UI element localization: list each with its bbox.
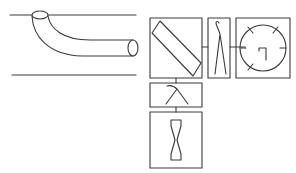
pipe-outer-wall — [32, 16, 133, 56]
mirror-box — [150, 18, 202, 78]
dial-pointer-icon — [259, 48, 266, 60]
hourglass-icon — [171, 120, 181, 160]
dial-box — [236, 18, 290, 78]
pipe-inner-wall — [48, 16, 133, 40]
hook-box — [150, 83, 202, 107]
hourglass-box — [150, 112, 202, 168]
pipe-outlet-ellipse — [128, 40, 138, 56]
pipe-inlet-ellipse — [32, 11, 48, 19]
pipe-section — [10, 11, 138, 75]
diagonal-plate-icon — [152, 21, 201, 76]
diagram-canvas — [0, 0, 296, 173]
diagram-svg — [0, 0, 296, 173]
hook-lambda-icon — [166, 86, 188, 104]
lambda-icon — [215, 22, 226, 75]
lambda-box — [208, 18, 230, 78]
